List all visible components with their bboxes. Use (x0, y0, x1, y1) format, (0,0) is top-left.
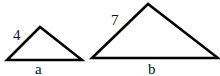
small-triangle-base-label: a (35, 61, 42, 76)
similar-triangles-diagram: 4 a 7 b (0, 0, 220, 76)
large-triangle-base-label: b (148, 61, 156, 76)
large-triangle-side-label: 7 (111, 12, 119, 28)
small-triangle-side-label: 4 (13, 27, 21, 43)
